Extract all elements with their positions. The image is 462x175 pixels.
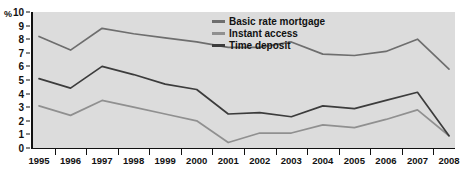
x-tick-mark <box>339 149 340 155</box>
legend-color-swatch <box>212 32 225 34</box>
y-tick-mark <box>26 148 30 149</box>
legend-item: Time deposit <box>212 40 325 51</box>
x-tick-label: 1997 <box>91 155 112 166</box>
x-tick-mark <box>370 149 371 155</box>
x-tick-label: 2002 <box>249 155 270 166</box>
x-tick-label: 2006 <box>375 155 396 166</box>
y-tick-label: 4 <box>18 88 24 99</box>
y-tick-label: 10 <box>13 7 24 18</box>
y-tick-label: 5 <box>18 75 24 86</box>
legend-color-swatch <box>212 44 225 46</box>
y-tick-mark <box>26 93 30 94</box>
x-tick-mark <box>402 149 403 155</box>
x-tick-mark <box>118 149 119 155</box>
y-tick-mark <box>26 39 30 40</box>
y-tick-label: 7 <box>18 47 24 58</box>
x-tick-label: 2008 <box>438 155 459 166</box>
legend-item: Basic rate mortgage <box>212 16 325 27</box>
x-tick-mark <box>433 149 434 155</box>
y-tick-label: 9 <box>18 20 24 31</box>
legend-label: Time deposit <box>229 40 291 51</box>
y-tick-mark <box>26 25 30 26</box>
y-tick-mark <box>26 134 30 135</box>
legend-label: Instant access <box>229 28 298 39</box>
y-tick-label: 0 <box>18 143 24 154</box>
y-tick-mark <box>26 66 30 67</box>
legend-color-swatch <box>212 20 225 22</box>
y-tick-mark <box>26 107 30 108</box>
x-tick-label: 1995 <box>28 155 49 166</box>
x-tick-label: 2004 <box>312 155 333 166</box>
x-tick-label: 1996 <box>60 155 81 166</box>
x-tick-mark <box>307 149 308 155</box>
x-tick-label: 2001 <box>218 155 239 166</box>
x-tick-mark <box>276 149 277 155</box>
x-tick-label: 2005 <box>344 155 365 166</box>
y-tick-label: 3 <box>18 102 24 113</box>
x-tick-mark <box>86 149 87 155</box>
y-tick-mark <box>26 12 30 13</box>
line-chart: % 012345678910 1995199619971998199920002… <box>0 0 462 175</box>
y-tick-mark <box>26 80 30 81</box>
x-tick-mark <box>149 149 150 155</box>
x-tick-mark <box>181 149 182 155</box>
x-tick-mark <box>244 149 245 155</box>
chart-legend: Basic rate mortgageInstant accessTime de… <box>212 16 325 51</box>
x-tick-label: 1998 <box>123 155 144 166</box>
y-tick-mark <box>26 52 30 53</box>
y-tick-label: 6 <box>18 61 24 72</box>
x-tick-label: 2000 <box>186 155 207 166</box>
y-axis: 012345678910 <box>0 0 31 175</box>
y-tick-mark <box>26 120 30 121</box>
x-tick-label: 2007 <box>407 155 428 166</box>
y-tick-label: 8 <box>18 34 24 45</box>
x-tick-label: 2003 <box>281 155 302 166</box>
x-axis: 1995199619971998199920002001200220032004… <box>33 149 455 175</box>
legend-item: Instant access <box>212 28 325 39</box>
y-tick-label: 2 <box>18 115 24 126</box>
x-tick-mark <box>212 149 213 155</box>
y-tick-label: 1 <box>18 129 24 140</box>
x-tick-mark <box>55 149 56 155</box>
series-line <box>39 100 449 142</box>
legend-label: Basic rate mortgage <box>229 16 325 27</box>
x-tick-label: 1999 <box>155 155 176 166</box>
